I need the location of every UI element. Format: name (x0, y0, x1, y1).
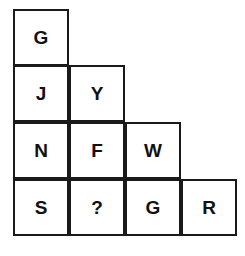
cell-r1-c1: Y (69, 65, 125, 122)
cell-r3-c3: R (181, 179, 237, 236)
cell-r3-c1-unknown: ? (69, 179, 125, 236)
cell-r0-c0: G (13, 9, 69, 66)
cell-r1-c0: J (13, 65, 69, 122)
cell-r3-c0: S (13, 179, 69, 236)
cell-r2-c2: W (125, 122, 181, 179)
cell-r3-c2: G (125, 179, 181, 236)
cell-r2-c0: N (13, 122, 69, 179)
cell-r2-c1: F (69, 122, 125, 179)
